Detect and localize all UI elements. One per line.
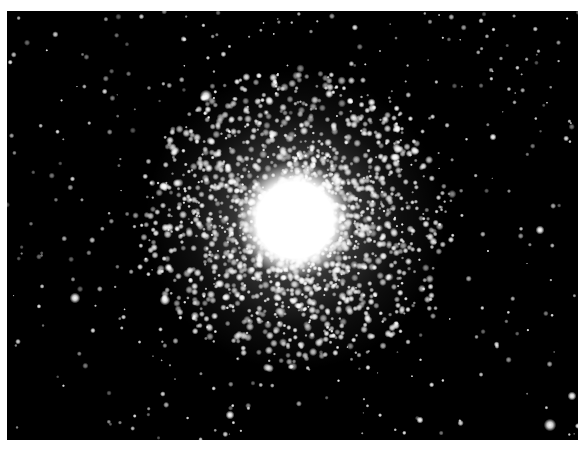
star-cluster-image — [7, 11, 578, 440]
starfield-canvas — [7, 11, 578, 440]
